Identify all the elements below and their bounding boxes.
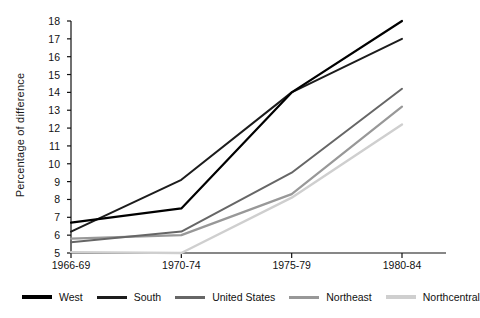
legend-item-united-states[interactable]: United States <box>175 291 275 303</box>
y-axis-tick-label: 13 <box>38 105 60 115</box>
series-line-west <box>71 21 402 223</box>
y-axis-tick-label: 15 <box>38 70 60 80</box>
legend-item-south[interactable]: South <box>97 291 161 303</box>
legend-swatch-icon <box>175 296 205 299</box>
legend-label: South <box>134 291 161 303</box>
y-axis-tick-label: 10 <box>38 159 60 169</box>
x-axis-tick-label: 1970-74 <box>141 260 221 271</box>
legend-swatch-icon <box>22 295 52 299</box>
y-axis-tick-label: 11 <box>38 141 60 151</box>
series-line-northcentral <box>71 125 402 253</box>
y-axis-tick-label: 8 <box>38 194 60 204</box>
y-axis-tick-label: 5 <box>38 248 60 258</box>
legend-label: United States <box>212 291 275 303</box>
x-axis-tick-label: 1966-69 <box>31 260 111 271</box>
x-axis-tick-label: 1980-84 <box>362 260 442 271</box>
chart-legend: WestSouthUnited StatesNortheastNorthcent… <box>22 288 442 306</box>
series-line-united-states <box>71 89 402 242</box>
legend-label: Northcentral <box>423 291 480 303</box>
x-axis-tick-label: 1975-79 <box>252 260 332 271</box>
legend-item-west[interactable]: West <box>22 291 83 303</box>
y-axis-tick-label: 7 <box>38 212 60 222</box>
legend-item-northcentral[interactable]: Northcentral <box>386 291 480 303</box>
y-axis-tick-label: 14 <box>38 87 60 97</box>
y-axis-tick-label: 9 <box>38 177 60 187</box>
y-axis-tick-label: 17 <box>38 34 60 44</box>
y-axis-tick-label: 6 <box>38 230 60 240</box>
legend-item-northeast[interactable]: Northeast <box>289 291 372 303</box>
legend-swatch-icon <box>289 296 319 299</box>
y-axis-tick-label: 18 <box>38 16 60 26</box>
y-axis-tick-label: 12 <box>38 123 60 133</box>
legend-swatch-icon <box>97 296 127 299</box>
y-axis-tick-label: 16 <box>38 52 60 62</box>
legend-label: Northeast <box>326 291 372 303</box>
legend-label: West <box>59 291 83 303</box>
legend-swatch-icon <box>386 295 416 299</box>
